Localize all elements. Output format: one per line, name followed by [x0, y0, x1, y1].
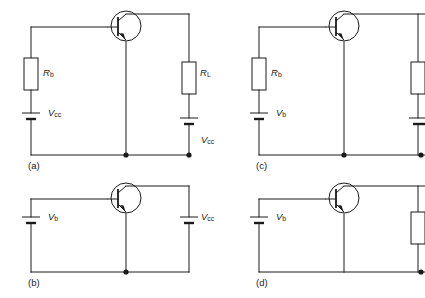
circuit-figure: Rb Vcc RL Vcc (a) Vb Vcc (b) Rb Vb (c) V… [0, 0, 425, 298]
panel-c-caption: (c) [256, 161, 267, 171]
panel-a-collector-source-label: Vcc [201, 135, 214, 146]
panel-c-junction-dot-emitter [341, 152, 346, 157]
panel-a-base-resistor-label: Rb [43, 68, 54, 79]
panel-d-load-resistor [411, 212, 425, 244]
panel-a-circuit [22, 11, 198, 158]
panel-a-junction-dot-right [186, 152, 191, 157]
panel-c-transistor-envelope [329, 11, 359, 41]
panel-b-base-source-label: Vb [48, 212, 58, 223]
circuit-canvas [0, 0, 425, 298]
panel-d-caption: (d) [256, 278, 268, 288]
panel-a-junction-dot-emitter [123, 152, 128, 157]
panel-d-junction-dot-right [418, 269, 423, 274]
panel-c-base-resistor [252, 58, 266, 90]
panel-a-transistor-collector-lead [118, 14, 126, 21]
panel-d-base-source-label: Vb [276, 212, 286, 223]
panel-b-circuit [22, 183, 198, 275]
panel-a-caption: (a) [28, 161, 40, 171]
panel-a-load-resistor-label: RL [200, 68, 211, 79]
panel-d-circuit [250, 183, 425, 275]
panel-c-transistor-collector-lead [336, 14, 344, 21]
panel-b-junction-dot-emitter [123, 269, 128, 274]
panel-c-load-resistor [411, 62, 425, 94]
panel-a-base-source-label: Vcc [48, 108, 61, 119]
panel-c-circuit [250, 11, 425, 158]
panel-b-transistor-envelope [111, 183, 141, 213]
panel-a-base-resistor [24, 58, 38, 90]
panel-a-transistor-envelope [111, 11, 141, 41]
panel-a-load-resistor [182, 62, 196, 94]
panel-b-transistor-collector-lead [118, 186, 126, 193]
panel-b-caption: (b) [28, 278, 40, 288]
panel-c-junction-dot-right [418, 152, 423, 157]
panel-c-base-source-label: Vb [276, 108, 286, 119]
panel-d-transistor-envelope [329, 183, 359, 213]
panel-d-transistor-collector-lead [336, 186, 344, 193]
panel-b-collector-source-label: Vcc [201, 212, 214, 223]
panel-c-base-resistor-label: Rb [271, 68, 282, 79]
